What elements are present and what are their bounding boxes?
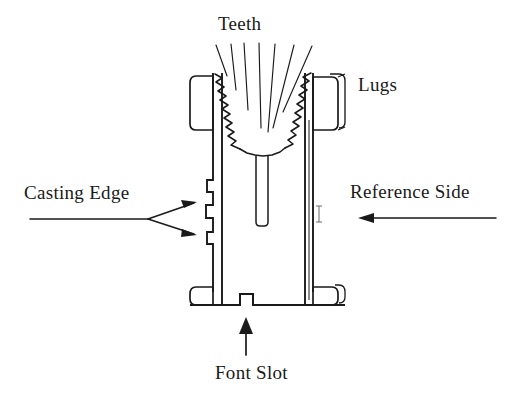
casting-edge-arrow [30, 203, 194, 234]
lower-left-lug [190, 287, 213, 305]
type-sort-diagram: Teeth Lugs Casting Edge Reference Side F… [0, 0, 518, 395]
label-casting-edge: Casting Edge [24, 183, 129, 202]
label-font-slot: Font Slot [215, 363, 288, 382]
lower-right-lug [313, 285, 345, 305]
serrated-v-notch [215, 73, 311, 156]
reference-side-arrowhead [358, 213, 374, 223]
upper-right-lug [313, 74, 345, 130]
label-lugs: Lugs [358, 75, 397, 94]
label-reference-side: Reference Side [350, 182, 470, 201]
casting-edge-arrowheads [181, 200, 197, 237]
center-stem [256, 155, 268, 226]
upper-left-lug [190, 76, 213, 130]
type-body [206, 73, 313, 305]
reference-side-tick-mark [316, 206, 322, 222]
label-teeth: Teeth [218, 14, 261, 33]
font-slot-arrowhead [239, 317, 253, 334]
font-slot-notch [240, 294, 253, 305]
